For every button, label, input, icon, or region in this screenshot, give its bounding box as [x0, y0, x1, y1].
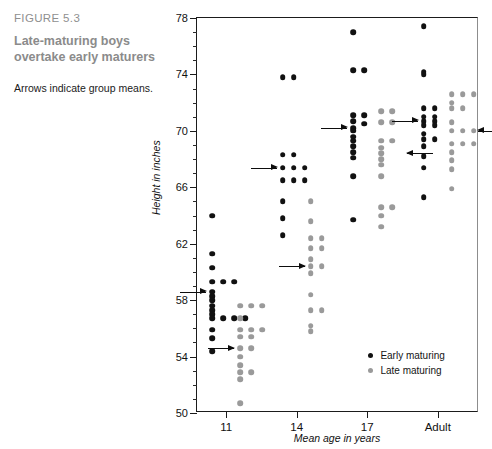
- data-point-early: [421, 144, 427, 150]
- data-point-late: [248, 345, 254, 351]
- data-point-late: [319, 307, 325, 313]
- data-point-late: [378, 204, 384, 210]
- data-point-late: [308, 199, 314, 205]
- figure-note: Arrows indicate group means.: [14, 81, 164, 95]
- data-point-late: [460, 105, 466, 111]
- data-point-early: [291, 177, 297, 183]
- data-point-late: [248, 369, 254, 375]
- y-axis-major-tick: [190, 413, 197, 414]
- data-point-late: [378, 162, 384, 168]
- data-point-early: [220, 279, 226, 285]
- data-point-early: [350, 29, 356, 35]
- data-point-early: [361, 67, 367, 73]
- data-point-late: [237, 369, 243, 375]
- data-point-late: [378, 120, 384, 126]
- data-point-early: [280, 74, 286, 80]
- y-axis-major-tick: [190, 357, 197, 358]
- y-axis-tick-label: 50: [176, 407, 188, 419]
- data-point-late: [471, 141, 477, 147]
- data-point-late: [308, 292, 314, 298]
- data-point-early: [421, 24, 427, 30]
- data-point-early: [242, 316, 248, 322]
- data-point-late: [237, 376, 243, 382]
- y-axis-title: Height in inches: [150, 140, 162, 215]
- data-point-early: [421, 137, 427, 143]
- data-point-early: [291, 74, 297, 80]
- x-axis-tick: [367, 411, 368, 418]
- y-axis-minor-tick: [193, 145, 198, 146]
- data-point-late: [449, 120, 455, 126]
- chart-legend: Early maturingLate maturing: [368, 348, 445, 378]
- data-point-early: [350, 118, 356, 124]
- data-point-late: [237, 334, 243, 340]
- data-point-late: [389, 138, 395, 144]
- y-axis-minor-tick: [193, 371, 198, 372]
- y-axis-minor-tick: [193, 173, 198, 174]
- data-point-late: [449, 166, 455, 172]
- data-point-late: [319, 263, 325, 269]
- y-axis-minor-tick: [193, 103, 198, 104]
- y-axis-major-tick: [190, 74, 197, 75]
- data-point-late: [308, 218, 314, 224]
- data-point-late: [449, 105, 455, 111]
- y-axis-major-tick: [190, 187, 197, 188]
- legend-item-late: Late maturing: [368, 363, 445, 378]
- legend-dot-late-icon: [368, 368, 373, 373]
- y-axis-minor-tick: [193, 117, 198, 118]
- y-axis-minor-tick: [193, 159, 198, 160]
- data-point-late: [308, 245, 314, 251]
- y-axis-minor-tick: [193, 258, 198, 259]
- data-point-early: [302, 177, 308, 183]
- data-point-late: [308, 256, 314, 262]
- data-point-early: [280, 165, 286, 171]
- x-axis-tick: [297, 411, 298, 418]
- y-axis-major-tick: [190, 244, 197, 245]
- data-point-early: [350, 155, 356, 161]
- data-point-late: [460, 91, 466, 97]
- data-point-early: [209, 213, 215, 219]
- data-point-early: [432, 105, 438, 111]
- y-axis-minor-tick: [193, 201, 198, 202]
- data-point-early: [291, 165, 297, 171]
- x-axis-title: Mean age in years: [196, 432, 478, 444]
- y-axis-minor-tick: [193, 342, 198, 343]
- y-axis-tick-label: 54: [176, 351, 188, 363]
- y-axis-tick-label: 62: [176, 238, 188, 250]
- y-axis-major-tick: [190, 131, 197, 132]
- legend-label: Late maturing: [380, 365, 441, 376]
- data-point-early: [421, 194, 427, 200]
- data-point-early: [231, 316, 237, 322]
- y-axis-tick-label: 66: [176, 181, 188, 193]
- y-axis-major-tick: [190, 18, 197, 19]
- data-point-late: [237, 400, 243, 406]
- y-axis-minor-tick: [193, 46, 198, 47]
- y-axis-minor-tick: [193, 272, 198, 273]
- y-axis-minor-tick: [193, 89, 198, 90]
- figure-title: Late-maturing boys overtake early mature…: [14, 33, 164, 65]
- data-point-late: [460, 141, 466, 147]
- data-point-early: [209, 251, 215, 257]
- data-point-early: [350, 217, 356, 223]
- y-axis-minor-tick: [193, 60, 198, 61]
- data-point-late: [449, 186, 455, 192]
- data-point-early: [350, 67, 356, 73]
- data-point-early: [209, 265, 215, 271]
- y-axis-tick-label: 74: [176, 68, 188, 80]
- data-point-early: [421, 105, 427, 111]
- figure-caption-block: FIGURE 5.3 Late-maturing boys overtake e…: [14, 12, 164, 95]
- data-point-early: [280, 232, 286, 238]
- data-point-late: [389, 204, 395, 210]
- data-point-late: [319, 245, 325, 251]
- data-point-early: [209, 327, 215, 333]
- y-axis-tick-label: 70: [176, 125, 188, 137]
- data-point-early: [280, 199, 286, 205]
- legend-dot-early-icon: [368, 353, 373, 358]
- data-point-late: [449, 141, 455, 147]
- data-point-early: [302, 165, 308, 171]
- data-point-early: [280, 152, 286, 158]
- y-axis-minor-tick: [193, 32, 198, 33]
- data-point-late: [237, 316, 243, 322]
- y-axis-minor-tick: [193, 399, 198, 400]
- data-point-early: [421, 122, 427, 128]
- data-point-early: [209, 279, 215, 285]
